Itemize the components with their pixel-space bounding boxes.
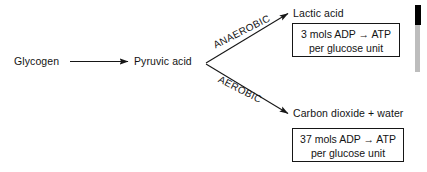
yield-aerobic-line1: 37 mols ADP → ATP [293, 132, 403, 146]
yield-aerobic-line2: per glucose unit [293, 146, 403, 160]
scan-edge-artifact-gray [415, 25, 420, 72]
node-label-pyruvic-acid: Pyruvic acid [134, 55, 192, 67]
yield-box-aerobic: 37 mols ADP → ATP per glucose unit [292, 128, 404, 162]
yield-box-anaerobic: 3 mols ADP → ATP per glucose unit [292, 23, 400, 57]
metabolism-diagram: Glycogen Pyruvic acid Lactic acid Carbon… [0, 0, 427, 172]
node-label-lactic-acid: Lactic acid [293, 7, 344, 19]
yield-anaerobic-line1: 3 mols ADP → ATP [293, 27, 399, 41]
yield-anaerobic-line2: per glucose unit [293, 41, 399, 55]
node-label-glycogen: Glycogen [14, 55, 59, 67]
node-label-carbon-dioxide-water: Carbon dioxide + water [293, 107, 403, 119]
scan-edge-artifact-dark [415, 5, 421, 25]
